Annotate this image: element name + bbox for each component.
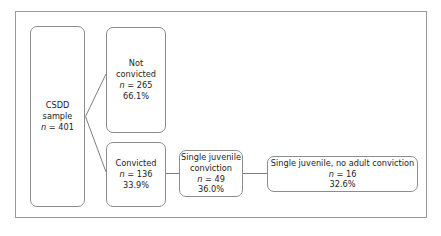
convicted-node[interactable]: Convicted n = 136 33.9% [106,142,166,207]
single-juvenile-conviction-node[interactable]: Single juvenile conviction n = 49 36.0% [179,150,243,197]
no-adult-percent: 32.6% [329,179,355,190]
not-convicted-n-symbol: n [120,80,125,90]
convicted-percent: 33.9% [123,180,149,191]
csdd-sample-line-2: sample [43,111,73,122]
csdd-sample-node[interactable]: CSDD sample n = 401 [30,26,85,207]
single-juvenile-no-adult-conviction-node[interactable]: Single juvenile, no adult conviction n =… [267,156,418,192]
convicted-count: n = 136 [120,169,153,180]
csdd-sample-line-1: CSDD [46,100,70,111]
no-adult-n-value: = 16 [336,169,356,179]
convicted-n-symbol: n [120,169,125,179]
not-convicted-n-value: = 265 [127,80,152,90]
no-adult-n-symbol: n [329,169,334,179]
no-adult-line-1: Single juvenile, no adult conviction [271,158,414,169]
flowchart-canvas: CSDD sample n = 401 Not convicted n = 26… [0,0,441,236]
not-convicted-line-1: Not [129,58,143,69]
single-juvenile-count: n = 49 [197,174,225,185]
convicted-line-1: Convicted [116,158,157,169]
single-juvenile-n-symbol: n [197,174,202,184]
not-convicted-count: n = 265 [120,80,153,91]
not-convicted-node[interactable]: Not convicted n = 265 66.1% [106,27,166,133]
no-adult-count: n = 16 [329,169,357,180]
single-juvenile-percent: 36.0% [198,184,224,195]
csdd-sample-n-symbol: n [41,122,46,132]
not-convicted-percent: 66.1% [123,91,149,102]
convicted-n-value: = 136 [127,169,152,179]
csdd-sample-count: n = 401 [41,122,74,133]
single-juvenile-line-2: conviction [190,163,232,174]
not-convicted-line-2: convicted [116,69,156,80]
single-juvenile-n-value: = 49 [205,174,225,184]
single-juvenile-line-1: Single juvenile [181,152,241,163]
csdd-sample-n-value: = 401 [49,122,74,132]
